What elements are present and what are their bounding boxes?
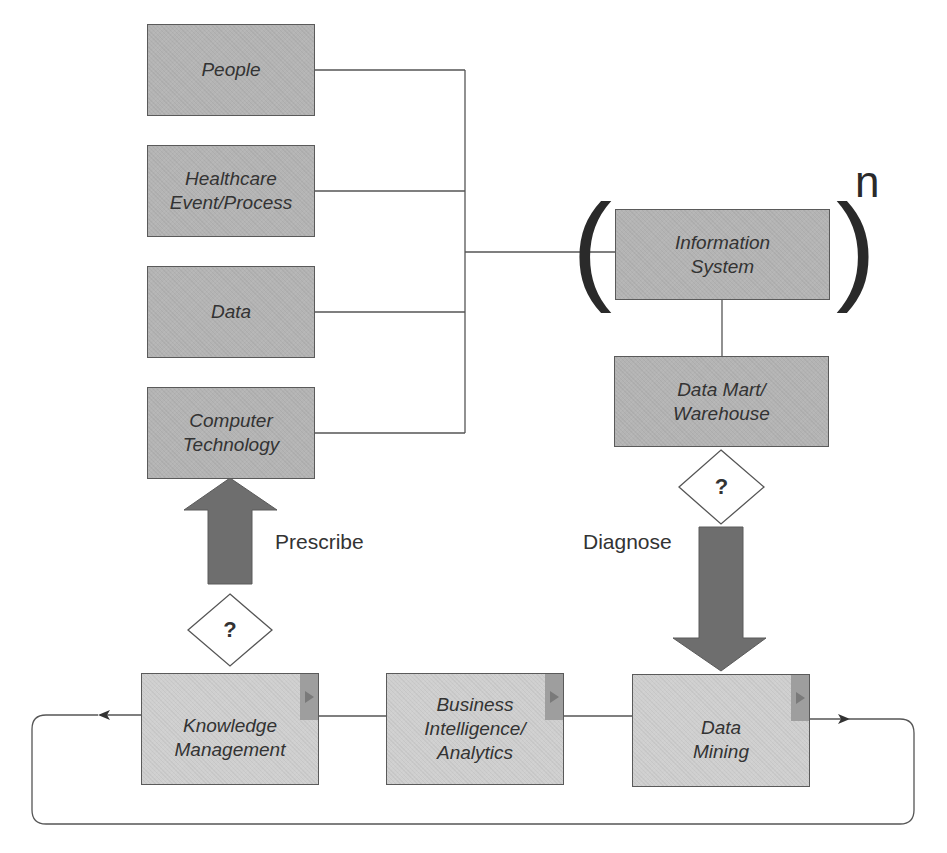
knowledge-management-box: Knowledge Management — [141, 673, 319, 785]
healthcare-label-line2: Event/Process — [170, 191, 293, 215]
expand-tab[interactable] — [300, 674, 318, 720]
computer-tech-label-line1: Computer — [189, 409, 272, 433]
prescribe-decision-diamond: ? — [188, 594, 272, 666]
dm-label-line1: Data — [701, 716, 741, 740]
data-mart-warehouse-box: Data Mart/ Warehouse — [614, 356, 829, 447]
play-triangle-icon — [550, 691, 559, 703]
play-triangle-icon — [305, 691, 314, 703]
dm-label-line2: Mining — [693, 740, 749, 764]
bi-label-line2: Intelligence/ — [424, 717, 525, 741]
diagram-canvas: People Healthcare Event/Process Data Com… — [0, 0, 947, 853]
people-box: People — [147, 24, 315, 116]
data-mart-label-line1: Data Mart/ — [677, 378, 766, 402]
exponent-n: n — [855, 160, 879, 204]
business-intelligence-box: Business Intelligence/ Analytics — [386, 673, 564, 785]
prescribe-arrow — [184, 478, 277, 584]
bi-label-line1: Business — [436, 693, 513, 717]
healthcare-label-line1: Healthcare — [185, 167, 277, 191]
info-system-label-line1: Information — [675, 231, 770, 255]
prescribe-label: Prescribe — [275, 530, 364, 554]
play-triangle-icon — [796, 692, 805, 704]
healthcare-event-box: Healthcare Event/Process — [147, 145, 315, 237]
computer-technology-box: Computer Technology — [147, 387, 315, 479]
diagnose-label: Diagnose — [583, 530, 672, 554]
data-mart-label-line2: Warehouse — [673, 402, 770, 426]
bi-label-line3: Analytics — [437, 741, 513, 765]
diagnose-arrow — [673, 527, 766, 671]
data-box: Data — [147, 266, 315, 358]
info-system-label-line2: System — [691, 255, 754, 279]
people-label: People — [201, 58, 260, 82]
km-label-line1: Knowledge — [183, 714, 277, 738]
computer-tech-label-line2: Technology — [183, 433, 279, 457]
expand-tab[interactable] — [545, 674, 563, 720]
diagnose-decision-diamond: ? — [679, 450, 764, 524]
open-parenthesis: ( — [572, 186, 612, 306]
information-system-box: Information System — [615, 209, 830, 300]
question-mark-icon: ? — [715, 474, 728, 500]
question-mark-icon: ? — [223, 617, 236, 643]
km-label-line2: Management — [175, 738, 286, 762]
expand-tab[interactable] — [791, 675, 809, 721]
data-label: Data — [211, 300, 251, 324]
data-mining-box: Data Mining — [632, 674, 810, 787]
